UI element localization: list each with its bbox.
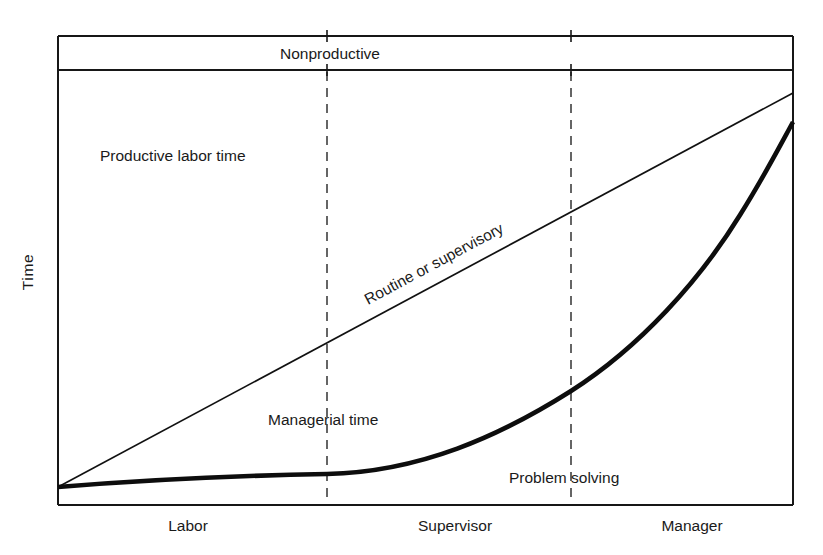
- y-axis-label: Time: [19, 254, 36, 290]
- category-dividers: [327, 30, 571, 504]
- chart-figure: Nonproductive Time Productive labor time…: [0, 0, 823, 555]
- annotation-routine-or-supervisory: Routine or supervisory: [361, 219, 506, 307]
- series-curve-thick: [58, 122, 793, 487]
- annotation-problem-solving: Problem solving: [509, 469, 619, 486]
- annotation-productive-labor-time: Productive labor time: [100, 147, 246, 164]
- chart-svg: Nonproductive Time Productive labor time…: [0, 0, 823, 555]
- nonproductive-band: Nonproductive: [58, 45, 793, 70]
- band-label-nonproductive: Nonproductive: [280, 45, 380, 62]
- x-axis-category-labels: Labor Supervisor Manager: [168, 517, 722, 534]
- x-label-labor: Labor: [168, 517, 208, 534]
- x-label-supervisor: Supervisor: [418, 517, 492, 534]
- annotation-managerial-time: Managerial time: [268, 411, 378, 428]
- x-label-manager: Manager: [661, 517, 722, 534]
- series-managerial-time: [58, 122, 793, 487]
